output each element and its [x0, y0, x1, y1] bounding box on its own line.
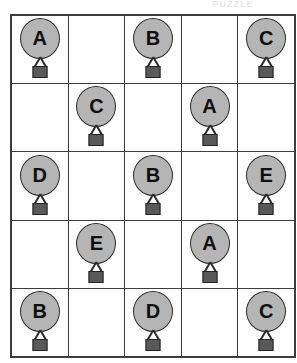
grid-cell-inner: B	[125, 152, 181, 219]
grid-cell-inner: C	[238, 16, 294, 83]
balloon-letter: C	[259, 301, 273, 321]
balloon-letter: E	[260, 165, 273, 185]
balloon-circle: D	[20, 155, 60, 196]
balloon-with-weight-icon[interactable]: C	[244, 291, 288, 351]
grid-cell-r1c3[interactable]: B	[125, 15, 182, 84]
balloon-with-weight-icon[interactable]: A	[188, 86, 232, 146]
grid-cell-r5c1[interactable]: B	[11, 288, 68, 357]
balloon-with-weight-icon[interactable]: D	[18, 155, 62, 215]
grid-row: EA	[11, 220, 295, 288]
weight-square	[32, 339, 47, 351]
grid-row: BDC	[11, 288, 295, 357]
grid-cell-r2c3[interactable]	[125, 84, 182, 152]
grid-cell-inner	[182, 16, 238, 83]
grid-cell-inner	[238, 221, 294, 288]
grid-cell-inner: E	[238, 152, 294, 219]
balloon-circle: A	[190, 223, 230, 264]
weight-square	[259, 66, 274, 78]
grid-cell-inner	[182, 289, 238, 356]
grid-cell-inner: D	[12, 152, 68, 219]
balloon-with-weight-icon[interactable]: A	[18, 18, 62, 78]
balloon-circle: E	[246, 155, 286, 196]
grid-cell-inner: C	[238, 289, 294, 356]
grid-cell-r4c5[interactable]	[238, 220, 295, 288]
weight-square	[202, 271, 217, 283]
grid-cell-inner	[69, 152, 125, 219]
balloon-letter: A	[202, 233, 216, 253]
balloon-with-weight-icon[interactable]: D	[131, 291, 175, 351]
puzzle-grid-container: ABCCADBEEABDC	[10, 14, 288, 350]
grid-row: CA	[11, 84, 295, 152]
balloon-circle: C	[246, 291, 286, 332]
weight-square	[32, 66, 47, 78]
balloon-letter: D	[146, 301, 160, 321]
balloon-with-weight-icon[interactable]: E	[74, 223, 118, 283]
puzzle-grid-body: ABCCADBEEABDC	[11, 15, 295, 357]
balloon-letter: C	[89, 96, 103, 116]
grid-cell-r1c4[interactable]	[181, 15, 238, 84]
grid-cell-inner: E	[69, 221, 125, 288]
weight-square	[145, 339, 160, 351]
grid-cell-r2c2[interactable]: C	[68, 84, 125, 152]
balloon-circle: D	[133, 291, 173, 332]
grid-cell-inner	[125, 84, 181, 151]
balloon-circle: B	[20, 291, 60, 332]
grid-cell-r5c5[interactable]: C	[238, 288, 295, 357]
grid-cell-r2c5[interactable]	[238, 84, 295, 152]
grid-cell-r1c5[interactable]: C	[238, 15, 295, 84]
grid-cell-inner	[182, 152, 238, 219]
grid-cell-r4c2[interactable]: E	[68, 220, 125, 288]
grid-cell-r1c2[interactable]	[68, 15, 125, 84]
balloon-circle: C	[246, 18, 286, 59]
grid-cell-inner	[12, 84, 68, 151]
balloon-letter: A	[202, 96, 216, 116]
grid-cell-r1c1[interactable]: A	[11, 15, 68, 84]
grid-cell-r3c1[interactable]: D	[11, 152, 68, 220]
balloon-with-weight-icon[interactable]: B	[131, 18, 175, 78]
balloon-circle: A	[20, 18, 60, 59]
grid-cell-inner: B	[12, 289, 68, 356]
page-root: PUZZLE ABCCADBEEABDC	[0, 0, 297, 363]
grid-row: DBE	[11, 152, 295, 220]
puzzle-grid: ABCCADBEEABDC	[10, 14, 296, 358]
balloon-circle: E	[76, 223, 116, 264]
grid-cell-r4c1[interactable]	[11, 220, 68, 288]
weight-square	[32, 203, 47, 215]
grid-cell-r3c3[interactable]: B	[125, 152, 182, 220]
grid-cell-r4c3[interactable]	[125, 220, 182, 288]
grid-cell-inner: B	[125, 16, 181, 83]
grid-cell-inner	[69, 289, 125, 356]
grid-cell-inner: A	[12, 16, 68, 83]
balloon-circle: B	[133, 18, 173, 59]
grid-cell-r4c4[interactable]: A	[181, 220, 238, 288]
balloon-circle: B	[133, 155, 173, 196]
grid-cell-r5c3[interactable]: D	[125, 288, 182, 357]
balloon-with-weight-icon[interactable]: B	[18, 291, 62, 351]
grid-cell-r3c5[interactable]: E	[238, 152, 295, 220]
grid-cell-inner: C	[69, 84, 125, 151]
grid-cell-r2c4[interactable]: A	[181, 84, 238, 152]
grid-cell-r3c2[interactable]	[68, 152, 125, 220]
grid-cell-inner	[12, 221, 68, 288]
balloon-letter: B	[146, 28, 160, 48]
weight-square	[259, 339, 274, 351]
balloon-with-weight-icon[interactable]: C	[244, 18, 288, 78]
weight-square	[145, 66, 160, 78]
balloon-letter: B	[146, 165, 160, 185]
balloon-with-weight-icon[interactable]: A	[188, 223, 232, 283]
balloon-with-weight-icon[interactable]: B	[131, 155, 175, 215]
weight-square	[145, 203, 160, 215]
grid-cell-inner: A	[182, 221, 238, 288]
balloon-with-weight-icon[interactable]: E	[244, 155, 288, 215]
grid-cell-r3c4[interactable]	[181, 152, 238, 220]
grid-cell-inner	[238, 84, 294, 151]
grid-cell-r5c2[interactable]	[68, 288, 125, 357]
balloon-circle: A	[190, 86, 230, 127]
grid-cell-inner	[69, 16, 125, 83]
grid-cell-r5c4[interactable]	[181, 288, 238, 357]
balloon-with-weight-icon[interactable]: C	[74, 86, 118, 146]
grid-cell-inner: A	[182, 84, 238, 151]
grid-cell-r2c1[interactable]	[11, 84, 68, 152]
balloon-letter: B	[33, 301, 47, 321]
grid-cell-inner: D	[125, 289, 181, 356]
